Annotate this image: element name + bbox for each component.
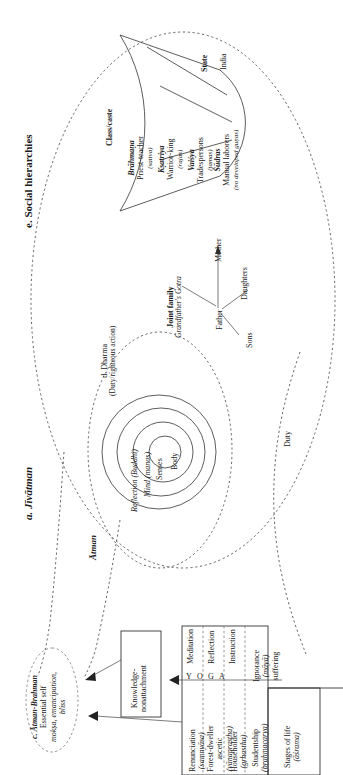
yoga-letter-a: A — [219, 672, 225, 681]
varna-name: Kṣatriya — [157, 139, 166, 180]
ignorance-text: Ignorance (māyā) suffering — [252, 650, 280, 682]
stage-householder: Householder (gṛhastha) — [230, 731, 249, 772]
varna-guna: (rajas) — [176, 139, 184, 180]
varna-ksatriya: Kṣatriya Warrior-king (rajas) — [157, 139, 184, 180]
atman-brahman-text: c. Ātman-Brahman Essential self mokṣa, e… — [30, 672, 68, 742]
stage-term: (gṛhastha) — [239, 731, 248, 772]
practice-reflection: Reflection — [207, 631, 216, 664]
duty-arc — [274, 352, 306, 654]
yoga-letter-y: Y — [186, 672, 192, 681]
knowledge-line2: nonattachment — [139, 665, 148, 712]
stage-name: Householder — [230, 731, 239, 772]
label-daughters: Daughters — [240, 267, 249, 300]
ignorance-line1: Ignorance — [252, 650, 261, 682]
heading-social-hierarchies: e. Social hierarchies — [22, 134, 35, 228]
joint-family-title: Joint family Grandfather's Gotra — [166, 276, 184, 338]
practice-meditation: Meditation — [186, 629, 195, 664]
yoga-letter-o: O — [197, 672, 203, 681]
atman-brahman-line1: Essential self — [39, 672, 48, 742]
label-father: Father — [215, 310, 224, 330]
sheath-circles — [102, 395, 216, 509]
atman-brahman-line2: mokṣa, emancipation, — [49, 672, 58, 742]
label-state: State — [200, 55, 209, 72]
joint-family-gotra: Grandfather's Gotra — [175, 276, 184, 338]
diagram-vectors — [0, 0, 343, 775]
label-sons: Sons — [245, 332, 254, 348]
varna-name: Śūdras — [213, 130, 222, 190]
sheath-body: Body — [170, 453, 179, 470]
stages-title-line1: Stages of life — [283, 726, 292, 768]
label-class-caste: Class/caste — [105, 109, 114, 146]
atman-brahman-title: c. Ātman-Brahman — [30, 672, 39, 742]
label-mother: Mother — [214, 238, 223, 262]
knowledge-line1: Knowledge- — [130, 665, 139, 712]
stage-name: Renunciation — [188, 729, 197, 772]
stage-term: (brahmacarya) — [260, 724, 269, 772]
varna-brahmana: Brāhmaṇa Priest-teacher (sattva) — [127, 136, 154, 180]
sheath-senses: Senses — [155, 458, 164, 480]
dharma-subtitle: (Duty/righteous action) — [109, 326, 118, 396]
label-atman: Ātman — [88, 535, 99, 560]
stages-title-line2: (āśrama) — [292, 726, 301, 768]
stages-of-life-title: Stages of life (āśrama) — [283, 726, 302, 768]
varna-role: Tradespersons — [196, 137, 205, 183]
sheath-reflection: Reflection (Buddhi) — [130, 449, 139, 512]
varna-name: Brāhmaṇa — [127, 136, 136, 180]
varna-role: Manual laborers — [222, 130, 231, 190]
stage-renunciation: Renunciation (saṃnyāsa) — [188, 729, 207, 772]
stage-studentship: Studentship (brahmacarya) — [251, 724, 270, 772]
varna-role: Warrior-king — [166, 139, 175, 180]
yoga-arrowhead — [169, 675, 179, 685]
dharma-label: d. Dharma (Duty/righteous action) — [100, 326, 118, 396]
ignorance-line2: (māyā) — [261, 650, 270, 682]
varna-role: Priest-teacher — [136, 136, 145, 180]
varna-name: Vaiśya — [187, 137, 196, 183]
knowledge-box-text: Knowledge- nonattachment — [130, 665, 149, 712]
practice-instruction: Instruction — [228, 629, 237, 664]
varna-guna: (sattva) — [146, 136, 154, 180]
label-india: India — [219, 54, 228, 70]
heading-jivatman: a. Jīvātman — [22, 467, 35, 520]
atman-brahman-line3: bliss — [58, 672, 67, 742]
varna-sudras: Śūdras Manual laborers (no developed guṇ… — [213, 130, 240, 190]
yoga-letter-g: G — [208, 672, 214, 681]
funnel-dash-left — [38, 452, 64, 676]
varna-guna: (no developed guṇas) — [232, 130, 240, 190]
varna-vaisya: Vaiśya Tradespersons (tamas) — [187, 137, 214, 183]
diagram-canvas: e. Social hierarchies a. Jīvātman State … — [0, 0, 343, 775]
stage-name: Forest-dweller — [206, 725, 215, 772]
stage-name: Studentship — [251, 724, 260, 772]
sheath-mind: Mind (manas) — [143, 452, 152, 497]
label-duty: Duty — [283, 431, 292, 447]
ignorance-line3: suffering — [271, 650, 280, 682]
stage-name2: ascetic — [215, 725, 224, 772]
